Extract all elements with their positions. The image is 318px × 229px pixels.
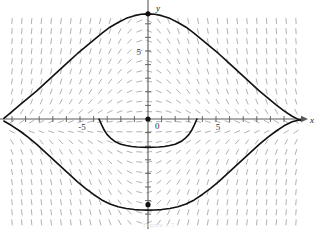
origin-dot bbox=[145, 116, 150, 121]
slope-field-figure: yx0-555 Figure 1.7 bbox=[0, 0, 318, 229]
curve-marker-dot bbox=[145, 11, 150, 16]
x-axis-label: x bbox=[309, 115, 314, 125]
origin-tick-label: 0 bbox=[155, 121, 160, 131]
upper-solution-curve bbox=[4, 14, 300, 120]
y-tick-label-5: 5 bbox=[137, 47, 142, 57]
axis-labels: yx0-555 bbox=[78, 3, 314, 132]
y-axis-label: y bbox=[155, 3, 160, 13]
x-tick-label-neg5: -5 bbox=[78, 122, 86, 132]
lower-solution-curve bbox=[4, 120, 300, 210]
plot-canvas: yx0-555 bbox=[0, 0, 318, 229]
curve-marker-dot bbox=[145, 202, 150, 207]
figure-caption: Figure 1.7 bbox=[0, 221, 318, 229]
axes bbox=[0, 0, 308, 229]
x-tick-label-5: 5 bbox=[216, 122, 221, 132]
